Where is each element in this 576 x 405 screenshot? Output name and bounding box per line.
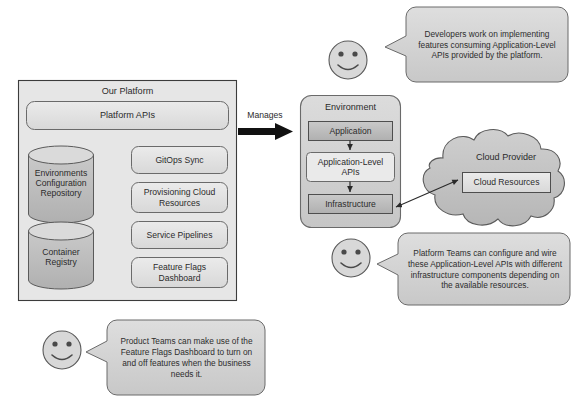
developers-smiley-face-icon <box>329 41 367 79</box>
product-teams-smiley-face-icon <box>43 331 81 369</box>
container-registry-shape <box>29 222 94 289</box>
environments-configuration-repository-shape <box>29 146 94 223</box>
feature-flags-dashboard-box <box>132 258 228 288</box>
platform-teams-note-bubble <box>377 233 570 305</box>
platform-teams-smiley-face-icon <box>332 239 370 277</box>
product-teams-note-bubble <box>86 320 265 395</box>
manages-arrow-icon <box>238 123 293 140</box>
application-box <box>309 122 393 141</box>
developers-note-bubble <box>385 7 568 82</box>
infrastructure-box <box>309 195 393 214</box>
service-pipelines-box <box>132 222 228 249</box>
gitops-sync-box <box>132 147 228 174</box>
platform-apis-box <box>27 102 229 130</box>
application-level-apis-box <box>307 153 395 182</box>
cloud-resources-box <box>463 173 551 193</box>
diagram-canvas: Our Platform Platform APIs Environments … <box>0 0 576 405</box>
provisioning-cloud-resources-box <box>132 183 228 213</box>
diagram-shapes <box>0 0 576 405</box>
